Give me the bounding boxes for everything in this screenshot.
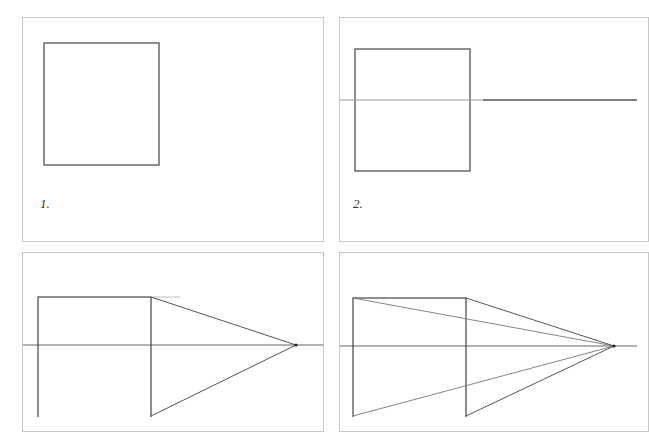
vanishing-point (294, 343, 297, 346)
vanishing-point (612, 344, 615, 347)
step-3-drawing (23, 297, 323, 417)
step-4-drawing (340, 298, 637, 417)
step-2-label: 2. (353, 196, 363, 212)
step-2-drawing (340, 49, 637, 171)
step-1-square (44, 43, 159, 165)
step-1-label: 1. (40, 196, 50, 212)
